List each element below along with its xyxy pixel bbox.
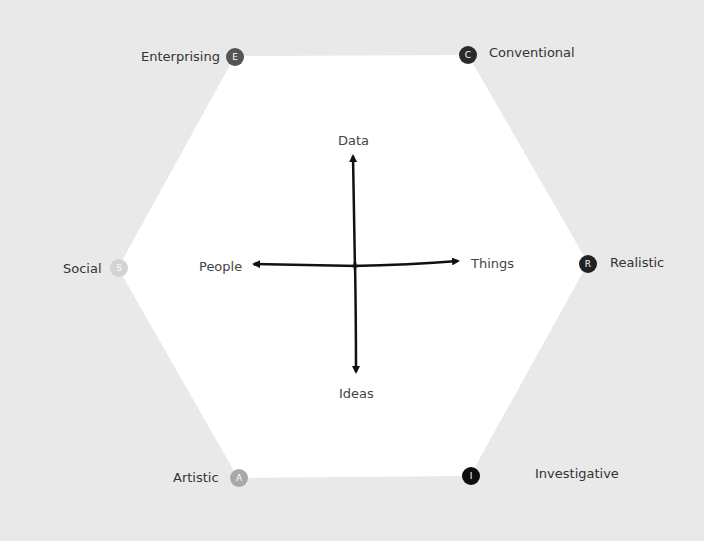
axis-label-people: People: [199, 259, 242, 275]
label-conventional: Conventional: [489, 45, 575, 61]
badge-r: R: [579, 255, 597, 273]
badge-s: S: [110, 259, 128, 277]
riasec-diagram: Enterprising E C Conventional R Realisti…: [0, 0, 704, 541]
label-enterprising: Enterprising: [141, 49, 220, 65]
label-social: Social: [63, 261, 102, 277]
hexagon-graphic: [0, 0, 704, 541]
label-realistic: Realistic: [610, 255, 664, 271]
arrow-down-icon: [355, 262, 356, 372]
axis-label-ideas: Ideas: [339, 386, 374, 402]
label-investigative: Investigative: [535, 466, 619, 482]
badge-a: A: [230, 469, 248, 487]
axis-label-things: Things: [471, 256, 514, 272]
axis-label-data: Data: [338, 133, 369, 149]
badge-c: C: [459, 46, 477, 64]
badge-i: I: [462, 467, 480, 485]
badge-e: E: [226, 48, 244, 66]
label-artistic: Artistic: [173, 470, 219, 486]
